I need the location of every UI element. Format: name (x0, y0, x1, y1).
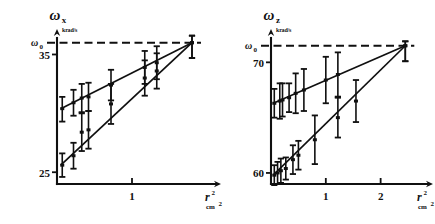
series-lower-branch (271, 41, 408, 185)
data-point-marker (281, 98, 285, 101)
data-point-marker (87, 128, 91, 131)
y-axis-title: ωxkrad/s (50, 7, 78, 33)
omega0-subscript: 0 (254, 46, 258, 54)
data-point-group (59, 153, 65, 177)
data-point-marker (287, 96, 291, 99)
x-axis-title: r2cm2 (417, 189, 435, 211)
y-axis-title: ωzkrad/s (264, 7, 292, 33)
y-axis-subscript: x (62, 15, 67, 25)
data-point-marker (155, 69, 159, 72)
data-point-marker (109, 102, 113, 105)
data-point-marker (80, 97, 84, 100)
data-point-group (271, 165, 277, 185)
data-point-group (108, 84, 114, 124)
data-point-marker (336, 73, 340, 76)
data-point-group (85, 111, 91, 149)
data-point-marker (302, 88, 306, 91)
y-axis-arrow (268, 29, 274, 36)
data-point-marker (87, 95, 91, 98)
x-axis-symbol: r (205, 190, 210, 204)
y-axis-symbol: ω (264, 7, 275, 23)
y-axis-symbol: ω (50, 7, 61, 23)
x-axis-exponent: 2 (212, 189, 216, 197)
data-point-marker (291, 158, 295, 161)
series-upper-branch (59, 36, 195, 122)
y-tick-label-lower: 60 (253, 167, 265, 179)
data-point-group (189, 36, 195, 58)
data-point-marker (143, 77, 147, 80)
data-point-marker (272, 102, 276, 105)
data-point-group (312, 115, 318, 164)
x-axis-symbol: r (417, 190, 422, 204)
x-axis-unit: cm (418, 203, 427, 211)
x-axis-unit-exponent: 2 (431, 200, 435, 208)
data-point-marker (60, 164, 64, 167)
data-point-marker (279, 169, 283, 172)
data-point-marker (324, 79, 328, 82)
data-point-group (335, 98, 341, 138)
y-axis-unit: krad/s (276, 27, 292, 33)
data-point-group (79, 113, 85, 151)
data-point-marker (72, 154, 76, 157)
x-axis-unit-exponent: 2 (219, 200, 223, 208)
omega0-symbol: ω (31, 37, 38, 48)
data-point-marker (80, 131, 84, 134)
data-point-group (290, 145, 296, 174)
data-point-group (353, 80, 359, 122)
y-axis-arrow (54, 29, 60, 36)
y-tick-label-upper: 35 (39, 49, 51, 61)
omega0-label-group: ω0 (245, 40, 258, 54)
series-lower-branch (59, 36, 195, 177)
data-point-group (295, 141, 301, 170)
fit-line (61, 43, 192, 165)
figure-container: 1ωxkrad/sω03525r2cm212ωzkrad/sω07060r2cm… (0, 0, 435, 224)
data-point-group (79, 84, 85, 112)
x-axis-exponent: 2 (424, 189, 428, 197)
x-axis-title: r2cm2 (205, 189, 223, 211)
x-tick-label: 1 (323, 190, 329, 202)
data-point-group (85, 83, 91, 111)
y-tick-label-lower: 25 (39, 167, 51, 179)
data-point-marker (313, 138, 317, 141)
panel-right-panel: 12ωzkrad/sω07060r2cm2 (245, 7, 435, 211)
data-point-marker (294, 92, 298, 95)
data-point-marker (354, 100, 358, 103)
data-point-marker (72, 101, 76, 104)
y-tick-label-upper: 70 (253, 57, 265, 69)
data-point-marker (296, 154, 300, 157)
data-point-group (59, 97, 65, 122)
y-axis-unit: krad/s (62, 27, 78, 33)
data-point-marker (60, 107, 64, 110)
data-point-marker (336, 116, 340, 119)
data-point-marker (190, 41, 194, 44)
omega0-symbol: ω (245, 40, 252, 51)
two-panel-scatter-figure: 1ωxkrad/sω03525r2cm212ωzkrad/sω07060r2cm… (0, 0, 435, 224)
data-point-marker (284, 167, 288, 170)
data-point-group (271, 89, 277, 118)
x-tick-label: 2 (378, 190, 384, 202)
y-axis-subscript: z (276, 15, 280, 25)
data-point-group (402, 41, 408, 61)
x-tick-label: 1 (129, 190, 135, 202)
panel-left-panel: 1ωxkrad/sω03525r2cm2 (31, 7, 223, 211)
data-point-marker (403, 44, 407, 47)
series-upper-branch (271, 41, 408, 118)
x-axis-unit: cm (206, 203, 215, 211)
